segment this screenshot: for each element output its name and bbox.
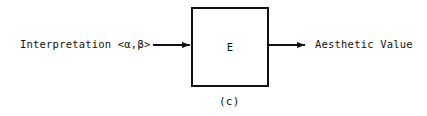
figure-caption: (c) <box>219 96 239 108</box>
output-label: Aesthetic Value <box>315 38 413 50</box>
block-label: E <box>193 41 267 53</box>
evaluation-block: E <box>191 7 269 87</box>
input-arrow-icon <box>153 42 190 48</box>
output-arrow-icon <box>268 42 305 48</box>
